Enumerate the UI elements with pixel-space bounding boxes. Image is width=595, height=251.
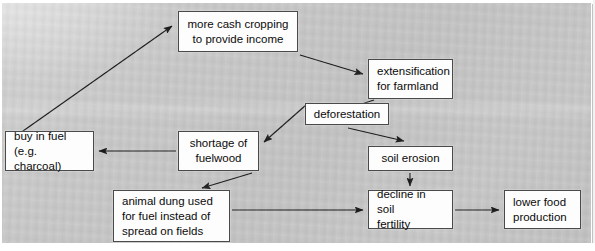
node-extensification: extensification for farmland (368, 59, 453, 99)
node-label-lower_food: lower food production (513, 195, 567, 225)
node-label-decline_soil: decline in soil fertility (377, 187, 446, 232)
node-label-deforestation: deforestation (314, 107, 381, 122)
diagram-page: more cash cropping to provide incomeexte… (0, 0, 595, 251)
diagram-canvas: more cash cropping to provide incomeexte… (2, 3, 591, 243)
node-deforestation: deforestation (305, 103, 389, 125)
node-shortage: shortage of fuelwood (178, 131, 259, 171)
node-label-animal_dung: animal dung used for fuel instead of spr… (122, 194, 213, 239)
node-cash_cropping: more cash cropping to provide income (178, 11, 298, 52)
edge-cash_cropping-to-extensification (300, 55, 363, 74)
node-label-extensification: extensification for farmland (377, 64, 450, 94)
node-buy_in_fuel: buy in fuel (e.g. charcoal) (5, 131, 94, 171)
node-label-buy_in_fuel: buy in fuel (e.g. charcoal) (14, 129, 87, 174)
node-label-cash_cropping: more cash cropping to provide income (188, 17, 289, 47)
node-label-shortage: shortage of fuelwood (190, 136, 248, 166)
node-decline_soil: decline in soil fertility (368, 190, 453, 229)
edge-deforestation-to-soil_erosion (348, 128, 404, 141)
node-label-soil_erosion: soil erosion (381, 151, 439, 166)
page-bottom-margin (0, 243, 595, 251)
node-soil_erosion: soil erosion (368, 146, 453, 171)
edge-buy_in_fuel-to-cash_cropping (6, 26, 172, 143)
edge-deforestation-to-shortage (264, 105, 306, 142)
node-animal_dung: animal dung used for fuel instead of spr… (113, 190, 230, 242)
node-lower_food: lower food production (504, 190, 581, 229)
edge-shortage-to-animal_dung (202, 173, 252, 188)
